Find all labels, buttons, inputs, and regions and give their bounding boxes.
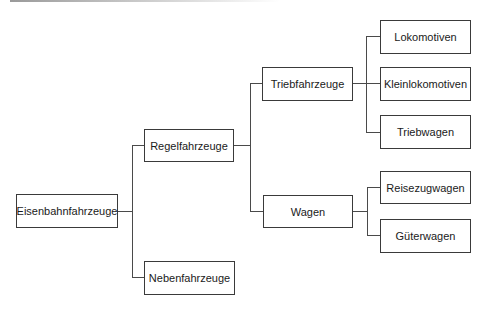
node-label: Triebwagen <box>397 126 454 138</box>
connector-trieb-spine <box>366 36 367 133</box>
node-label: Lokomotiven <box>394 31 456 43</box>
connector-wagen-spine <box>367 187 368 236</box>
node-label: Reisezugwagen <box>386 182 464 194</box>
node-label: Triebfahrzeuge <box>271 78 345 90</box>
node-label: Kleinlokomotiven <box>384 78 467 90</box>
connector-to-kleinlokomotiven <box>366 83 380 84</box>
node-lokomotiven: Lokomotiven <box>380 20 471 54</box>
node-regelfahrzeuge: Regelfahrzeuge <box>144 129 234 162</box>
node-eisenbahnfahrzeuge: Eisenbahnfahrzeuge <box>16 194 118 228</box>
node-wagen: Wagen <box>263 195 353 228</box>
connector-trieb-out <box>353 83 367 84</box>
connector-regel-out <box>234 145 251 146</box>
connector-root-spine <box>132 145 133 278</box>
connector-to-triebwagen <box>366 132 380 133</box>
node-triebwagen: Triebwagen <box>380 115 471 149</box>
node-triebfahrzeuge: Triebfahrzeuge <box>262 67 353 101</box>
connector-to-triebfahrzeuge <box>250 83 262 84</box>
node-kleinlokomotiven: Kleinlokomotiven <box>380 67 471 101</box>
connector-to-regelfahrzeuge <box>132 145 144 146</box>
connector-root-out <box>118 211 133 212</box>
node-label: Güterwagen <box>396 230 456 242</box>
node-nebenfahrzeuge: Nebenfahrzeuge <box>144 261 235 295</box>
connector-to-nebenfahrzeuge <box>132 277 144 278</box>
connector-to-lokomotiven <box>366 36 380 37</box>
node-label: Regelfahrzeuge <box>150 140 228 152</box>
connector-regel-spine <box>250 83 251 212</box>
node-label: Wagen <box>291 206 325 218</box>
node-label: Eisenbahnfahrzeuge <box>17 205 118 217</box>
top-divider <box>10 0 280 2</box>
connector-wagen-out <box>353 211 367 212</box>
connector-to-gueterwagen <box>367 235 380 236</box>
node-reisezugwagen: Reisezugwagen <box>380 171 471 204</box>
connector-to-wagen <box>250 211 263 212</box>
node-label: Nebenfahrzeuge <box>149 272 230 284</box>
node-gueterwagen: Güterwagen <box>380 219 471 253</box>
connector-to-reisezugwagen <box>367 187 380 188</box>
